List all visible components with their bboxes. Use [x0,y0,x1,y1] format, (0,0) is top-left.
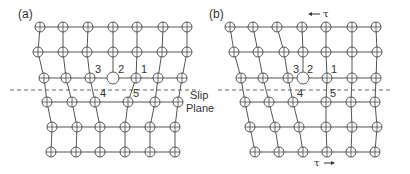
arrowhead-icon [308,12,312,16]
dislocation-slip-diagram: (a)32145SlipPlane(b)32145ττ [0,0,410,174]
tau-label: τ [323,8,329,19]
atom-number-label: 5 [133,87,139,99]
tau-label: τ [314,157,320,168]
atom-number-label: 4 [297,87,303,99]
atom-number-label: 1 [141,63,147,75]
panel-b: (b)32145ττ [209,7,392,168]
arrowhead-icon [331,161,335,165]
panel-a: (a)32145SlipPlane [10,7,214,157]
atom-number-label: 3 [95,63,101,75]
atom-number-label: 3 [293,63,299,75]
plane-label: Plane [186,102,214,114]
panel-label: (a) [18,7,33,21]
shear-stress-top: τ [308,8,329,19]
lattice-figure: (a)32145SlipPlane(b)32145ττ [0,0,410,174]
shear-stress-bottom: τ [314,157,335,168]
atom-number-label: 2 [307,63,313,75]
atom-number-label: 2 [118,63,124,75]
atom-number-label: 4 [100,87,106,99]
atom-number-label: 1 [331,63,337,75]
slip-label: Slip [190,89,208,101]
atom-number-label: 5 [330,87,336,99]
panel-label: (b) [209,7,224,21]
